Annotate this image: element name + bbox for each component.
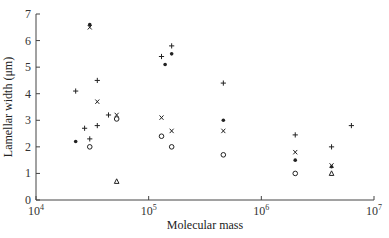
data-point-cross	[160, 115, 164, 119]
data-point-dot	[170, 52, 174, 56]
data-point-triangle	[329, 171, 334, 176]
data-point-circle	[159, 134, 164, 139]
y-tick-label: 7	[25, 7, 31, 21]
data-point-plus	[95, 78, 100, 83]
data-point-circle	[293, 171, 298, 176]
x-tick-label: 105	[141, 203, 157, 218]
data-point-plus	[106, 112, 111, 117]
data-point-plus	[87, 136, 92, 141]
data-point-cross	[293, 150, 297, 154]
data-point-dot	[330, 165, 334, 169]
data-point-plus	[221, 80, 226, 85]
x-tick-label: 106	[253, 203, 269, 218]
y-tick-label: 5	[25, 60, 31, 74]
x-ticks: 104105106107	[28, 196, 382, 218]
data-point-triangle	[114, 179, 119, 184]
axes	[36, 14, 374, 200]
data-point-circle	[221, 153, 226, 158]
data-point-plus	[159, 54, 164, 59]
data-points	[73, 23, 354, 184]
data-point-circle	[169, 145, 174, 150]
x-tick-label: 104	[28, 203, 44, 218]
data-point-circle	[114, 117, 119, 122]
y-tick-label: 2	[25, 140, 31, 154]
scatter-chart: 01234567 104105106107 Molecular mass Lam…	[0, 0, 389, 238]
data-point-dot	[293, 158, 297, 162]
y-axis-label: Lamellar width (μm)	[1, 57, 15, 157]
data-point-circle	[87, 145, 92, 150]
y-tick-label: 4	[25, 87, 31, 101]
data-point-cross	[170, 129, 174, 133]
data-point-cross	[221, 129, 225, 133]
data-point-plus	[349, 123, 354, 128]
data-point-plus	[329, 144, 334, 149]
y-tick-label: 1	[25, 166, 31, 180]
data-point-dot	[74, 140, 78, 144]
data-point-plus	[95, 123, 100, 128]
x-axis-label: Molecular mass	[167, 218, 244, 232]
data-point-plus	[293, 132, 298, 137]
x-tick-label: 107	[366, 203, 382, 218]
data-point-cross	[95, 99, 99, 103]
y-ticks: 01234567	[25, 7, 40, 207]
data-point-dot	[222, 118, 226, 122]
data-point-plus	[82, 126, 87, 131]
data-point-dot	[88, 23, 92, 27]
data-point-dot	[163, 63, 167, 67]
y-tick-label: 6	[25, 34, 31, 48]
data-point-plus	[73, 88, 78, 93]
y-tick-label: 3	[25, 113, 31, 127]
data-point-plus	[169, 43, 174, 48]
